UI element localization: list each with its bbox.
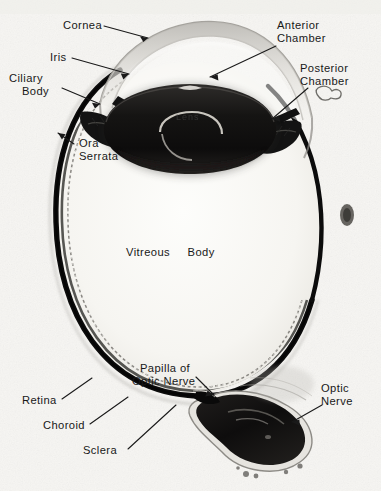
label-sclera: Sclera [83, 444, 117, 457]
eye-cross-section-figure: Cornea Iris Ciliary Body Ora Serrata Ant… [0, 0, 381, 491]
label-ora-serrata-line2: Serrata [79, 150, 119, 163]
label-ora-serrata-line1: Ora [79, 137, 99, 150]
label-cornea: Cornea [63, 19, 102, 32]
label-retina: Retina [22, 394, 57, 407]
label-papilla-line2: Optic Nerve [132, 375, 195, 388]
label-ciliary-body-line2: Body [22, 85, 49, 98]
label-anterior-chamber-line1: Anterior [277, 19, 319, 32]
label-lens: Lens [176, 112, 200, 122]
label-ciliary-body-line1: Ciliary [9, 72, 43, 85]
lens-body [104, 84, 277, 176]
label-vitreous-body: Vitreous Body [126, 246, 215, 259]
label-papilla-line1: Papilla of [140, 362, 190, 375]
label-optic-nerve-line2: Nerve [321, 395, 353, 408]
label-posterior-chamber-line2: Chamber [300, 75, 349, 88]
tissue-speck [340, 204, 354, 226]
label-optic-nerve-line1: Optic [321, 382, 349, 395]
label-anterior-chamber-line2: Chamber [277, 32, 326, 45]
label-choroid: Choroid [43, 419, 85, 432]
label-iris: Iris [50, 51, 67, 64]
label-posterior-chamber-line1: Posterior [300, 62, 348, 75]
